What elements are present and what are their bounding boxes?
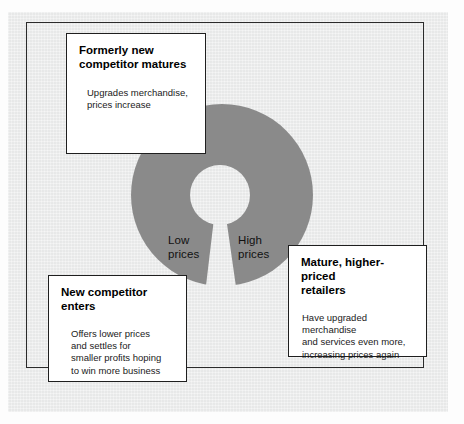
callout-box-mature-higher-priced-retailers: Mature, higher-priced retailers Have upg…: [288, 245, 427, 357]
callout-box-formerly-new-competitor: Formerly new competitor matures Upgrades…: [66, 33, 206, 154]
ring-label-low-prices: Low prices: [168, 234, 199, 261]
callout-title-mature-higher-priced-retailers: Mature, higher-priced retailers: [301, 255, 415, 297]
callout-title-formerly-new-competitor: Formerly new competitor matures: [79, 43, 194, 71]
ring-label-high-prices: High prices: [238, 234, 269, 261]
figure-page: Low prices High prices Formerly new comp…: [0, 0, 464, 424]
callout-body-new-competitor-enters: Offers lower prices and settles for smal…: [71, 328, 175, 377]
callout-box-new-competitor-enters: New competitor enters Offers lower price…: [48, 275, 187, 382]
callout-title-new-competitor-enters: New competitor enters: [61, 285, 175, 313]
callout-body-formerly-new-competitor: Upgrades merchandise, prices increase: [87, 87, 194, 111]
callout-body-mature-higher-priced-retailers: Have upgraded merchandise and services e…: [302, 312, 415, 361]
